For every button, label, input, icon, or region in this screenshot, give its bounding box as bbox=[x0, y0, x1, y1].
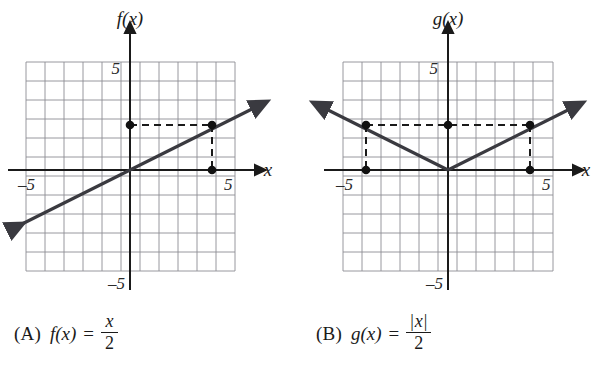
point-4-0-b bbox=[526, 166, 535, 175]
caption-numerator-var-b: x bbox=[415, 311, 423, 331]
point-neg4-0-b bbox=[362, 166, 371, 175]
function-curve-right-b bbox=[448, 109, 570, 170]
y-tick-neg5-b: –5 bbox=[425, 274, 443, 293]
caption-tag-a: (A) bbox=[14, 323, 41, 345]
caption-numerator-b: |x| bbox=[406, 312, 431, 332]
point-4-2-a bbox=[208, 121, 217, 130]
caption-denominator-b: 2 bbox=[406, 332, 431, 353]
graph-panel-a: f(x) x 5 –5 –5 5 bbox=[0, 0, 302, 300]
y-axis-label-a: f(x) bbox=[117, 8, 143, 30]
x-tick-neg5-a: –5 bbox=[17, 175, 35, 194]
x-axis-label-a: x bbox=[263, 159, 273, 180]
caption-tag-b: (B) bbox=[316, 323, 342, 345]
x-tick-5-a: 5 bbox=[224, 175, 233, 194]
caption-equals-b: = bbox=[389, 323, 400, 345]
caption-function-name-b: g(x) bbox=[351, 323, 382, 345]
x-axis-label-b: x bbox=[581, 159, 591, 180]
point-0-2-a bbox=[126, 121, 135, 130]
caption-fraction-b: |x| 2 bbox=[406, 312, 431, 352]
point-neg4-2-b bbox=[362, 121, 371, 130]
x-tick-5-b: 5 bbox=[542, 175, 551, 194]
abs-bar-right-b: | bbox=[423, 311, 429, 331]
caption-fraction-a: x 2 bbox=[101, 312, 118, 352]
y-tick-5-b: 5 bbox=[430, 59, 439, 78]
caption-a: (A) f(x) = x 2 bbox=[14, 300, 316, 367]
x-tick-neg5-b: –5 bbox=[335, 175, 353, 194]
y-axis-label-b: g(x) bbox=[433, 8, 464, 30]
caption-function-name-a: f(x) bbox=[50, 323, 76, 345]
caption-denominator-a: 2 bbox=[101, 332, 118, 353]
point-4-2-b bbox=[526, 121, 535, 130]
caption-b: (B) g(x) = |x| 2 bbox=[316, 300, 604, 367]
caption-equals-a: = bbox=[83, 323, 94, 345]
graph-svg-b: g(x) x 5 –5 –5 5 bbox=[302, 0, 604, 300]
point-4-0-a bbox=[208, 166, 217, 175]
figure-root: f(x) x 5 –5 –5 5 bbox=[0, 0, 604, 367]
graph-svg-a: f(x) x 5 –5 –5 5 bbox=[0, 0, 302, 300]
point-0-2-b bbox=[444, 121, 453, 130]
y-tick-5-a: 5 bbox=[112, 59, 121, 78]
function-curve-left-b bbox=[326, 109, 448, 170]
caption-numerator-a: x bbox=[103, 312, 117, 332]
y-tick-neg5-a: –5 bbox=[107, 274, 125, 293]
graph-panel-b: g(x) x 5 –5 –5 5 bbox=[302, 0, 604, 300]
